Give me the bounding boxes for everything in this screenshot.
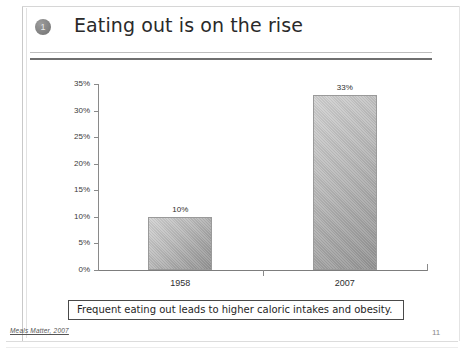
y-axis-tick-mark [94, 137, 98, 138]
header-divider-thin [30, 52, 432, 53]
slide-border-top [22, 6, 460, 7]
slide-border-bottom [6, 341, 458, 342]
x-axis-category-label: 2007 [317, 278, 373, 288]
y-axis-tick-label: 20% [56, 160, 90, 168]
y-axis-tick-label: 25% [56, 133, 90, 141]
header-divider-thick [30, 58, 432, 60]
source-citation: Meals Matter, 2007 [10, 327, 69, 334]
y-axis-tick-label: 35% [56, 80, 90, 88]
bar-value-label: 33% [325, 83, 365, 92]
caption-text: Frequent eating out leads to higher calo… [77, 304, 392, 315]
y-axis-tick-label: 5% [56, 239, 90, 247]
slide-canvas: 1 Eating out is on the rise 0%5%10%15%20… [0, 0, 464, 353]
slide-border-bottom-inner [6, 347, 458, 348]
y-axis-tick-label: 15% [56, 186, 90, 194]
y-axis-tick-mark [94, 164, 98, 165]
y-axis-tick-label: 30% [56, 107, 90, 115]
page-number: 11 [432, 328, 440, 337]
y-axis-tick-label: 10% [56, 213, 90, 221]
y-axis-tick-mark [94, 190, 98, 191]
y-axis-tick-label: 0% [56, 266, 90, 274]
slide-border-left [22, 6, 23, 341]
y-axis-tick-mark [94, 84, 98, 85]
x-axis-category-label: 1958 [152, 278, 208, 288]
y-axis-tick-mark [94, 111, 98, 112]
bar-1958 [148, 217, 212, 270]
bar-2007 [313, 95, 377, 270]
y-axis-tick-mark [94, 243, 98, 244]
page-title: Eating out is on the rise [74, 14, 303, 36]
y-axis-tick-mark [94, 270, 98, 271]
bar-value-label: 10% [160, 205, 200, 214]
x-axis-cap-left [98, 264, 99, 271]
bar-chart: 0%5%10%15%20%25%30%35% 10%33% 19582007 [30, 74, 432, 290]
y-axis-tick-mark [94, 217, 98, 218]
caption-box: Frequent eating out leads to higher calo… [68, 300, 404, 320]
y-axis-line [98, 84, 99, 271]
x-axis-tick-mark [263, 270, 264, 276]
slide-border-left-inner [26, 8, 27, 338]
x-axis-cap-right [427, 264, 428, 271]
slide-border-right [459, 6, 460, 341]
slide-header: 1 Eating out is on the rise [30, 14, 430, 48]
numbered-bullet-icon: 1 [35, 19, 51, 35]
